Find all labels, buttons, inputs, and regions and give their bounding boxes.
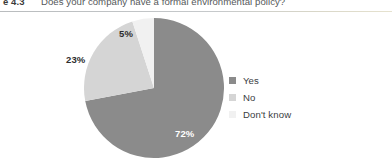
caption-divider xyxy=(0,11,392,12)
legend-item-yes: Yes xyxy=(229,72,291,89)
figure-number: e 4.3 xyxy=(3,0,25,7)
legend-label-yes: Yes xyxy=(243,75,259,86)
pie-chart-svg xyxy=(84,18,224,160)
legend-label-dont-know: Don't know xyxy=(243,109,291,120)
legend-swatch-dont-know xyxy=(229,111,236,118)
figure-panel: e 4.3 Does your company have a formal en… xyxy=(0,0,392,160)
legend-swatch-yes xyxy=(229,77,236,84)
legend-label-no: No xyxy=(243,92,255,103)
pie-chart xyxy=(84,18,224,160)
figure-title: Does your company have a formal environm… xyxy=(41,0,285,7)
chart-legend: Yes No Don't know xyxy=(229,72,291,123)
legend-swatch-no xyxy=(229,94,236,101)
pie-label-no: 23% xyxy=(66,54,85,65)
legend-item-dont-know: Don't know xyxy=(229,106,291,123)
pie-label-dont-know: 5% xyxy=(119,28,133,39)
pie-label-yes: 72% xyxy=(175,128,194,139)
figure-caption: e 4.3 Does your company have a formal en… xyxy=(0,0,392,11)
legend-item-no: No xyxy=(229,89,291,106)
